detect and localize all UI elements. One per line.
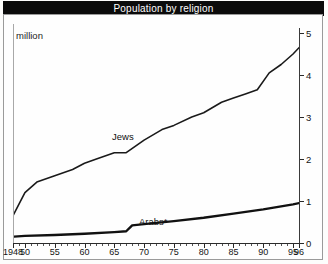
x-tick-minor bbox=[186, 244, 187, 246]
y-tick-label: 1 bbox=[306, 196, 311, 207]
x-tick-minor bbox=[251, 244, 252, 246]
x-tick-minor bbox=[222, 244, 223, 246]
line-series-jews bbox=[14, 48, 299, 216]
x-tick-label: 60 bbox=[79, 247, 89, 257]
x-tick-minor bbox=[168, 244, 169, 246]
y-axis-line bbox=[299, 28, 300, 245]
x-tick-minor bbox=[67, 244, 68, 246]
x-tick-minor bbox=[61, 244, 62, 246]
y-tick-label: 2 bbox=[306, 154, 311, 165]
y-tick-mark bbox=[300, 243, 304, 244]
x-tick-minor bbox=[79, 244, 80, 246]
y-tick-label: 5 bbox=[306, 28, 311, 39]
x-tick-minor bbox=[73, 244, 74, 246]
x-tick-minor bbox=[126, 244, 127, 246]
x-tick-minor bbox=[108, 244, 109, 246]
x-tick-minor bbox=[150, 244, 151, 246]
x-tick-minor bbox=[90, 244, 91, 246]
x-tick-minor bbox=[49, 244, 50, 246]
y-tick-mark bbox=[300, 117, 304, 118]
x-tick-minor bbox=[275, 244, 276, 246]
x-tick-minor bbox=[210, 244, 211, 246]
x-tick-minor bbox=[228, 244, 229, 246]
plot-left-border bbox=[13, 24, 14, 244]
x-tick-minor bbox=[269, 244, 270, 246]
x-tick-minor bbox=[287, 244, 288, 246]
chart-screenshot: Population by religion million 012345 19… bbox=[0, 0, 328, 264]
x-tick-minor bbox=[96, 244, 97, 246]
y-tick-mark bbox=[300, 201, 304, 202]
x-tick-label: 90 bbox=[258, 247, 268, 257]
plot-area bbox=[14, 24, 299, 243]
series-lines bbox=[14, 24, 299, 243]
y-tick-mark bbox=[300, 33, 304, 34]
x-tick-label: 85 bbox=[228, 247, 238, 257]
x-tick-label: 96 bbox=[294, 247, 304, 257]
x-tick-minor bbox=[281, 244, 282, 246]
x-tick-minor bbox=[156, 244, 157, 246]
x-tick-label: 75 bbox=[169, 247, 179, 257]
x-tick-label: 50 bbox=[20, 247, 30, 257]
x-tick-minor bbox=[138, 244, 139, 246]
x-tick-label: 55 bbox=[50, 247, 60, 257]
series-label-jews: Jews bbox=[112, 131, 134, 142]
x-tick-minor bbox=[19, 244, 20, 246]
y-tick-label: 0 bbox=[306, 238, 311, 249]
x-tick-minor bbox=[43, 244, 44, 246]
y-tick-mark bbox=[300, 75, 304, 76]
x-tick-minor bbox=[198, 244, 199, 246]
x-tick-minor bbox=[216, 244, 217, 246]
x-tick-minor bbox=[162, 244, 163, 246]
x-tick-minor bbox=[180, 244, 181, 246]
y-tick-label: 3 bbox=[306, 112, 311, 123]
y-tick-label: 4 bbox=[306, 70, 311, 81]
x-tick-minor bbox=[257, 244, 258, 246]
x-tick-label: 70 bbox=[139, 247, 149, 257]
x-tick-minor bbox=[245, 244, 246, 246]
x-tick-minor bbox=[132, 244, 133, 246]
series-label-arabs: Arabs* bbox=[139, 216, 168, 227]
x-tick-minor bbox=[37, 244, 38, 246]
x-tick-minor bbox=[192, 244, 193, 246]
x-tick-label: 80 bbox=[199, 247, 209, 257]
x-tick-minor bbox=[31, 244, 32, 246]
x-tick-minor bbox=[102, 244, 103, 246]
y-tick-mark bbox=[300, 159, 304, 160]
x-tick-label: 65 bbox=[109, 247, 119, 257]
x-tick-minor bbox=[239, 244, 240, 246]
x-tick-minor bbox=[120, 244, 121, 246]
page-title: Population by religion bbox=[113, 3, 213, 14]
